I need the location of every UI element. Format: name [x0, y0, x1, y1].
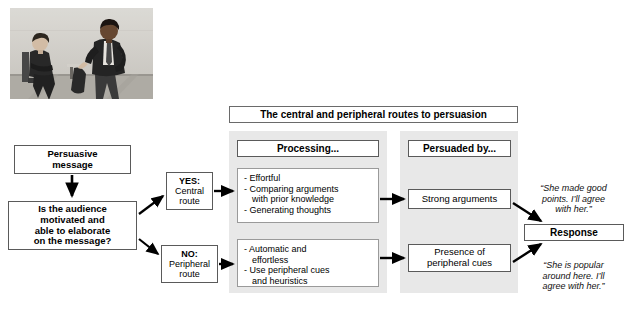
figure-title: The central and peripheral routes to per…: [229, 106, 518, 123]
strong-arguments-box: Strong arguments: [408, 189, 511, 209]
central-processing-item: - Generating thoughts: [244, 205, 373, 216]
arrow-question-to-no: [139, 239, 158, 254]
peripheral-processing-item: - Automatic and effortless: [244, 244, 373, 265]
central-response-quote-text: “She made good points. I’ll agree with h…: [540, 183, 607, 215]
figure-title-text: The central and peripheral routes to per…: [260, 109, 487, 120]
processing-header-text: Processing...: [238, 142, 378, 155]
processing-header: Processing...: [237, 140, 379, 157]
peripheral-processing-item: - Use peripheral cues and heuristics: [244, 265, 373, 286]
persuasion-photograph: [10, 8, 153, 99]
audience-question-box: Is the audience motivated and able to el…: [8, 201, 137, 250]
persuaded-by-header-text: Persuaded by...: [409, 142, 510, 155]
branch-yes-label: YES:: [179, 176, 200, 186]
branch-no-route: Peripheral route: [169, 259, 210, 279]
persuasive-message-text: Persuasive message: [15, 148, 130, 171]
branch-yes-box: YES: Central route: [166, 172, 213, 210]
branch-no-label: NO:: [181, 249, 198, 259]
persuasive-message-box: Persuasive message: [14, 145, 131, 174]
peripheral-processing-box: - Automatic and effortless - Use periphe…: [237, 239, 379, 287]
central-processing-box: - Effortful - Comparing arguments with p…: [237, 168, 379, 223]
response-header-text: Response: [525, 226, 623, 239]
central-processing-item: - Effortful: [244, 173, 373, 184]
audience-question-text: Is the audience motivated and able to el…: [9, 203, 136, 248]
central-processing-item: - Comparing arguments with prior knowled…: [244, 184, 373, 205]
peripheral-cues-box: Presence of peripheral cues: [408, 244, 511, 272]
arrow-question-to-yes: [139, 196, 163, 214]
branch-yes-route: Central route: [175, 186, 204, 206]
persuaded-by-header: Persuaded by...: [408, 140, 511, 157]
response-header: Response: [524, 224, 624, 241]
photograph-illustration: [10, 8, 153, 99]
peripheral-cues-text: Presence of peripheral cues: [409, 246, 510, 269]
branch-no-box: NO: Peripheral route: [161, 245, 218, 283]
figure-canvas: The central and peripheral routes to per…: [0, 0, 631, 314]
peripheral-response-quote-text: “She is popular around here. I’ll agree …: [542, 260, 604, 292]
peripheral-response-quote: “She is popular around here. I’ll agree …: [520, 249, 627, 292]
central-response-quote: “She made good points. I’ll agree with h…: [520, 172, 627, 215]
strong-arguments-text: Strong arguments: [409, 193, 510, 206]
